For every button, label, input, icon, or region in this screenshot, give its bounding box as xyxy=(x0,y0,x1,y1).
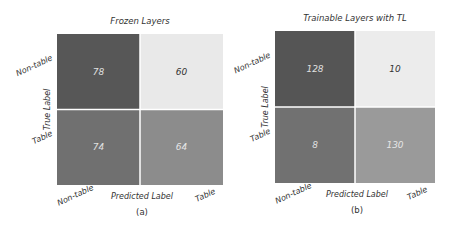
panel-caption: (a) xyxy=(136,207,148,217)
y-tick-label: Table xyxy=(249,127,272,144)
confusion-matrix-panel-b: Trainable Layers with TL128108130Non-tab… xyxy=(233,13,435,215)
x-axis-label: Predicted Label xyxy=(326,190,389,199)
cell-value-label: 130 xyxy=(386,140,403,150)
x-tick-label: Non-table xyxy=(56,183,95,208)
y-axis-label: True Label xyxy=(43,88,52,130)
chart-title: Trainable Layers with TL xyxy=(303,13,407,23)
chart-title: Frozen Layers xyxy=(110,16,170,26)
y-tick-label: Non-table xyxy=(15,53,54,78)
x-tick-label: Table xyxy=(406,185,429,202)
y-axis-label: True Label xyxy=(261,85,270,127)
cell-value-label: 8 xyxy=(312,140,318,150)
y-tick-label: Table xyxy=(31,129,54,146)
panel-caption: (b) xyxy=(351,205,363,215)
cell-value-label: 10 xyxy=(389,64,401,74)
cell-value-label: 64 xyxy=(176,142,188,152)
x-axis-label: Predicted Label xyxy=(111,192,174,201)
confusion-matrix-panel-a: Frozen Layers78607464Non-tableTableTrue … xyxy=(15,16,223,217)
x-tick-label: Table xyxy=(194,187,217,204)
confusion-matrix-figure: Frozen Layers78607464Non-tableTableTrue … xyxy=(0,0,453,232)
y-tick-label: Non-table xyxy=(233,51,272,76)
cell-value-label: 128 xyxy=(306,64,323,74)
cell-value-label: 74 xyxy=(93,142,105,152)
cell-value-label: 78 xyxy=(93,67,105,77)
cell-value-label: 60 xyxy=(176,67,188,77)
x-tick-label: Non-table xyxy=(274,181,313,206)
